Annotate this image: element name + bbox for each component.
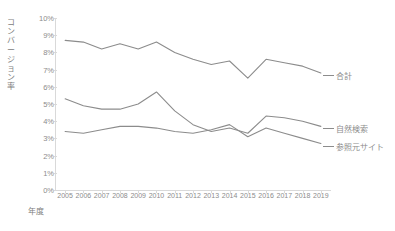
series-line-2	[65, 125, 321, 144]
x-tick-mark-2011	[175, 190, 176, 193]
x-tick-2017: 2017	[277, 192, 293, 199]
x-tick-2009: 2009	[130, 192, 146, 199]
x-tick-mark-2009	[138, 190, 139, 193]
legend-dash-0	[323, 75, 334, 76]
y-tick-1: 1%	[43, 168, 54, 177]
x-tick-2011: 2011	[167, 192, 182, 199]
y-tick-4: 4%	[43, 117, 54, 126]
x-tick-2005: 2005	[57, 192, 73, 199]
x-tick-mark-2007	[102, 190, 103, 193]
x-tick-mark-2014	[230, 190, 231, 193]
y-tick-9: 9%	[43, 31, 54, 40]
y-axis-title-char-5: ョ	[3, 64, 19, 73]
x-tick-2019: 2019	[313, 192, 329, 199]
y-tick-5: 5%	[43, 100, 54, 109]
plot-area	[56, 18, 330, 190]
x-tick-2016: 2016	[258, 192, 274, 199]
x-tick-mark-2013	[211, 190, 212, 193]
x-tick-2007: 2007	[94, 192, 110, 199]
legend-dash-1	[323, 128, 334, 129]
legend-dash-2	[323, 146, 334, 147]
x-tick-2006: 2006	[76, 192, 92, 199]
x-tick-mark-2010	[156, 190, 157, 193]
x-tick-mark-2019	[321, 190, 322, 193]
x-axis-title: 年度	[28, 205, 44, 216]
y-axis-title-char-4: ジ	[3, 55, 19, 64]
y-axis-title-char-3: ー	[3, 46, 19, 55]
conversion-rate-line-chart: コンバージョン率 10%9%8%7%6%5%4%3%2%1%0% 年度 合計自然…	[0, 0, 395, 231]
y-axis-title-char-1: ン	[3, 27, 19, 36]
y-tick-2: 2%	[43, 151, 54, 160]
x-tick-2013: 2013	[203, 192, 219, 199]
x-tick-mark-2018	[303, 190, 304, 193]
y-tick-6: 6%	[43, 82, 54, 91]
legend-label-1: 自然検索	[336, 123, 368, 134]
y-axis-title-char-2: バ	[3, 36, 19, 45]
y-tick-8: 8%	[43, 48, 54, 57]
y-axis-title: コンバージョン率	[3, 18, 19, 92]
x-tick-mark-2012	[193, 190, 194, 193]
y-tick-3: 3%	[43, 134, 54, 143]
series-lines	[56, 18, 330, 190]
x-tick-2008: 2008	[112, 192, 128, 199]
x-tick-2012: 2012	[185, 192, 201, 199]
cut-off-header-text	[105, 0, 390, 10]
legend-label-2: 参照元サイト	[336, 141, 384, 152]
legend-label-0: 合計	[336, 70, 352, 81]
x-tick-2010: 2010	[149, 192, 165, 199]
y-tick-0: 0%	[43, 186, 54, 195]
x-tick-2015: 2015	[240, 192, 256, 199]
x-tick-2018: 2018	[295, 192, 311, 199]
x-tick-mark-2005	[65, 190, 66, 193]
y-tick-10: 10%	[39, 14, 54, 23]
x-tick-mark-2006	[83, 190, 84, 193]
y-axis-tick-labels: 10%9%8%7%6%5%4%3%2%1%0%	[22, 0, 54, 231]
x-tick-mark-2015	[248, 190, 249, 193]
x-tick-mark-2008	[120, 190, 121, 193]
x-tick-2014: 2014	[222, 192, 238, 199]
series-line-1	[65, 92, 321, 133]
x-tick-mark-2016	[266, 190, 267, 193]
x-tick-mark-2017	[284, 190, 285, 193]
y-tick-7: 7%	[43, 65, 54, 74]
y-axis-title-char-7: 率	[3, 82, 19, 91]
series-line-0	[65, 40, 321, 78]
y-axis-title-char-0: コ	[3, 18, 19, 27]
